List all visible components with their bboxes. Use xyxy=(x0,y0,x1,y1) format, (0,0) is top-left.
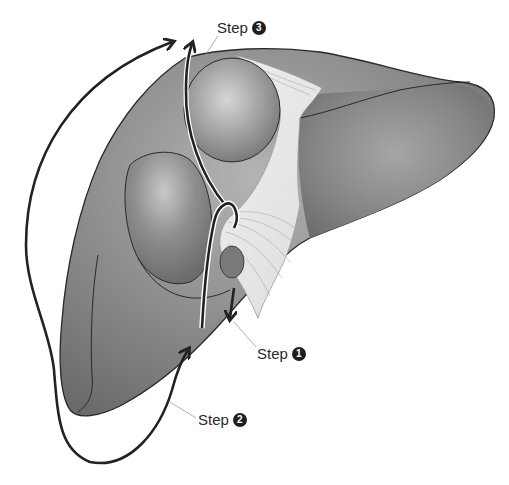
step2-label: Step 2 xyxy=(198,411,247,428)
liver-dome xyxy=(184,58,280,162)
vessel-stump xyxy=(220,246,244,278)
step1-label: Step 1 xyxy=(257,345,306,362)
step2-text: Step xyxy=(198,411,229,428)
step3-label: Step 3 xyxy=(217,19,266,36)
right-lobe xyxy=(298,84,492,238)
step1-text: Step xyxy=(257,345,288,362)
step2-leader xyxy=(170,402,196,418)
liver-diagram xyxy=(0,0,509,485)
step1-number-badge: 1 xyxy=(292,347,306,361)
step3-text: Step xyxy=(217,19,248,36)
step3-number-badge: 3 xyxy=(252,21,266,35)
step1-leader xyxy=(234,322,256,347)
step2-number-badge: 2 xyxy=(233,413,247,427)
